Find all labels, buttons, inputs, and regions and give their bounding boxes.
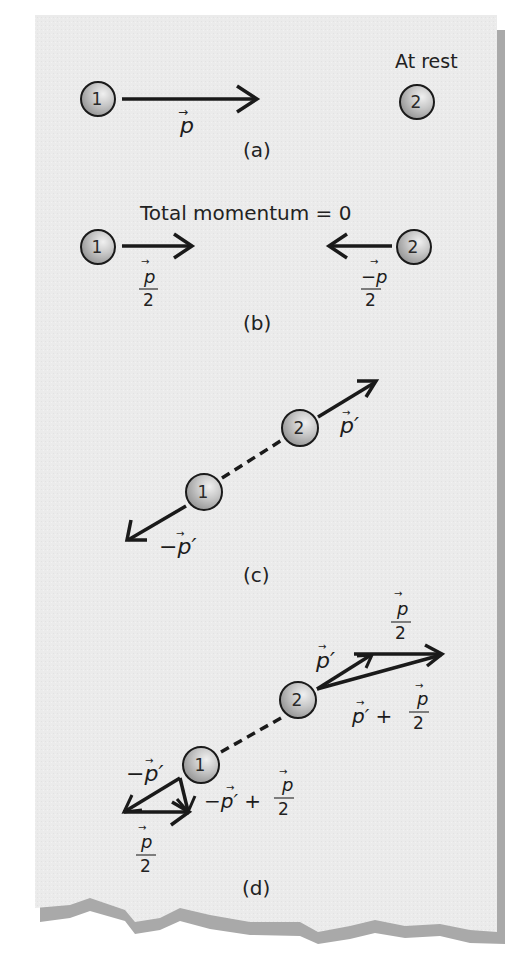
svg-text:2: 2 <box>408 237 419 257</box>
svg-text:2: 2 <box>413 713 424 733</box>
svg-text:2: 2 <box>278 799 289 819</box>
total-momentum-title: Total momentum = 0 <box>139 201 351 225</box>
at-rest-label: At rest <box>395 50 458 72</box>
ball-2: 2 <box>280 682 316 718</box>
ball-2: 2 <box>400 85 434 119</box>
svg-text:2: 2 <box>365 290 376 310</box>
svg-text:p′: p′ <box>339 413 359 438</box>
ball-1: 1 <box>81 230 115 264</box>
svg-text:1: 1 <box>92 89 103 109</box>
svg-text:−p′: −p′ <box>159 534 196 559</box>
svg-text:1: 1 <box>195 755 206 775</box>
ball-2: 2 <box>282 410 318 446</box>
svg-text:p′: p′ <box>315 648 335 673</box>
caption-a: (a) <box>243 138 271 162</box>
svg-text:2: 2 <box>292 690 303 710</box>
svg-text:2: 2 <box>411 92 422 112</box>
svg-text:p: p <box>143 266 155 287</box>
ball-1: 1 <box>183 747 219 783</box>
svg-text:p: p <box>416 688 428 709</box>
svg-text:−p′ +: −p′ + <box>204 789 261 813</box>
svg-text:p: p <box>140 831 152 852</box>
svg-text:2: 2 <box>143 290 154 310</box>
svg-text:1: 1 <box>92 237 103 257</box>
svg-text:2: 2 <box>395 623 406 643</box>
svg-text:2: 2 <box>294 418 305 438</box>
caption-d: (d) <box>242 876 270 900</box>
caption-b: (b) <box>243 311 271 335</box>
svg-text:−p: −p <box>361 266 388 287</box>
ball-2: 2 <box>397 230 431 264</box>
svg-text:p: p <box>396 598 408 619</box>
ball-1: 1 <box>81 82 115 116</box>
svg-text:p′ +: p′ + <box>351 704 392 728</box>
svg-text:p: p <box>281 774 293 795</box>
ball-1: 1 <box>186 474 222 510</box>
collision-diagram: 1 p → At rest 2 (a) Total momentum = 0 1… <box>0 0 520 964</box>
svg-text:−p′: −p′ <box>126 761 163 786</box>
vector-arrow-glyph: → <box>178 105 188 119</box>
caption-c: (c) <box>243 563 270 587</box>
svg-text:1: 1 <box>198 482 209 502</box>
svg-text:2: 2 <box>140 856 151 876</box>
